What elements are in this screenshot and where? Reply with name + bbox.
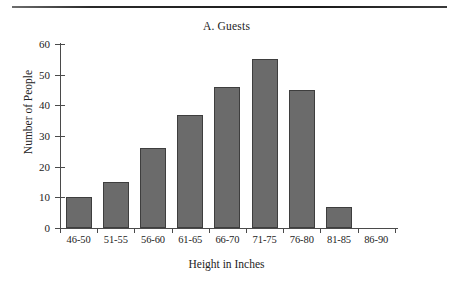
x-tick-mark xyxy=(209,228,210,233)
x-tick-label: 66-70 xyxy=(215,234,239,245)
y-tick-mark xyxy=(55,197,65,198)
y-tick-label: 0 xyxy=(20,222,50,234)
y-tick-mark xyxy=(55,105,65,106)
x-tick-label: 46-50 xyxy=(67,234,91,245)
y-tick-mark xyxy=(55,167,65,168)
y-tick-mark xyxy=(55,75,65,76)
bar xyxy=(252,59,278,228)
x-tick-mark xyxy=(172,228,173,233)
x-tick-label: 51-55 xyxy=(104,234,128,245)
chart-title: A. Guests xyxy=(0,20,453,32)
x-tick-mark xyxy=(134,228,135,233)
bar-chart-figure: A. Guests 0102030405060 46-5051-5556-606… xyxy=(0,0,453,292)
x-tick-mark xyxy=(320,228,321,233)
x-tick-label: 76-80 xyxy=(290,234,314,245)
bar xyxy=(66,197,92,228)
x-tick-mark xyxy=(60,228,61,233)
y-tick-label: 10 xyxy=(20,191,50,203)
x-tick-label: 81-85 xyxy=(327,234,351,245)
bar xyxy=(140,148,166,228)
x-tick-mark xyxy=(395,228,396,233)
x-tick-mark xyxy=(97,228,98,233)
bar xyxy=(289,90,315,228)
bar xyxy=(103,182,129,228)
x-tick-mark xyxy=(246,228,247,233)
x-axis-line xyxy=(60,228,398,229)
y-tick-mark xyxy=(55,136,65,137)
x-axis-title: Height in Inches xyxy=(0,258,453,270)
bar xyxy=(326,207,352,228)
x-tick-label: 86-90 xyxy=(364,234,388,245)
x-tick-label: 71-75 xyxy=(253,234,277,245)
bar xyxy=(177,115,203,228)
x-tick-label: 56-60 xyxy=(141,234,165,245)
bar xyxy=(214,87,240,228)
y-tick-mark xyxy=(55,44,65,45)
y-axis-title: Number of People xyxy=(22,32,34,192)
x-tick-mark xyxy=(283,228,284,233)
x-tick-label: 61-65 xyxy=(178,234,202,245)
x-tick-mark xyxy=(358,228,359,233)
